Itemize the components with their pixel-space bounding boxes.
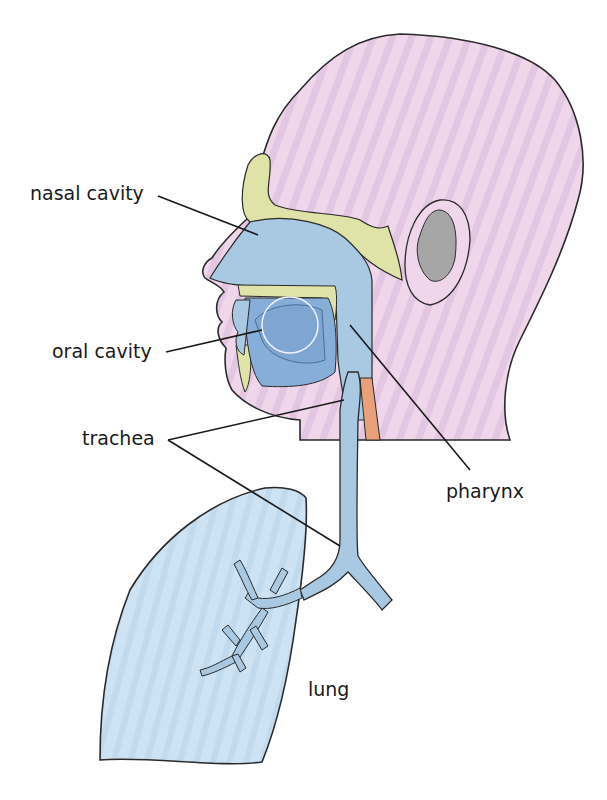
label-nasal-cavity: nasal cavity — [30, 182, 144, 204]
label-pharynx: pharynx — [446, 480, 524, 502]
label-oral-cavity: oral cavity — [52, 340, 152, 362]
lung-shape — [100, 487, 306, 763]
label-lung: lung — [308, 678, 349, 700]
label-trachea: trachea — [82, 427, 155, 449]
respiratory-diagram — [0, 0, 607, 800]
